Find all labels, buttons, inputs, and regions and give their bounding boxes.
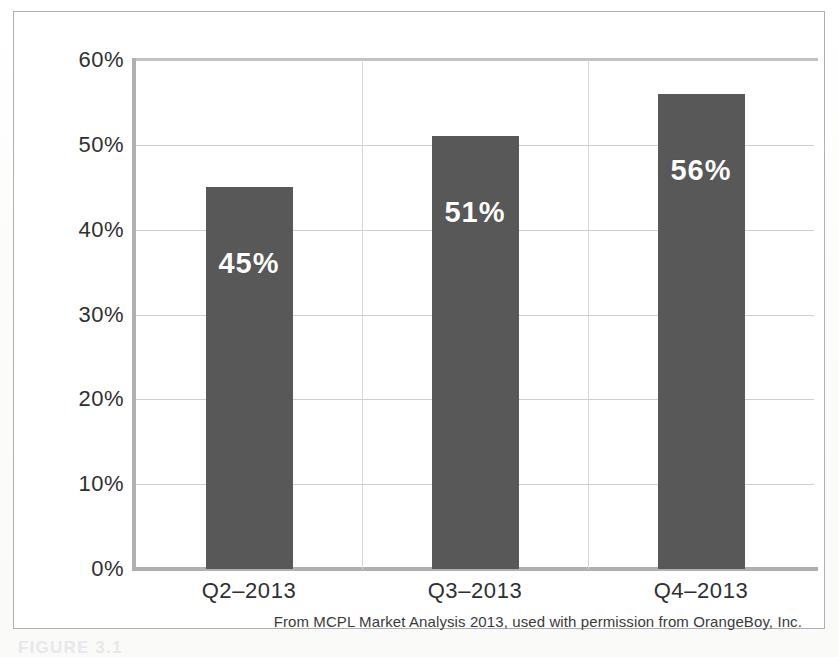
y-tick-label: 40% bbox=[20, 217, 124, 243]
source-caption: From MCPL Market Analysis 2013, used wit… bbox=[274, 613, 802, 630]
x-tick-label: Q2–2013 bbox=[159, 578, 339, 604]
plot-area: 45%51%56% bbox=[136, 60, 814, 569]
bar-value-label: 51% bbox=[432, 196, 519, 229]
y-tick-label: 30% bbox=[20, 302, 124, 328]
y-tick-label: 10% bbox=[20, 471, 124, 497]
x-tick-label: Q4–2013 bbox=[611, 578, 791, 604]
category-separator bbox=[588, 60, 589, 569]
figure-frame: 0%10%20%30%40%50%60% 45%51%56% Q2–2013Q3… bbox=[13, 11, 825, 629]
figure-number-caption: FIGURE 3.1 bbox=[18, 638, 123, 657]
y-tick-label: 20% bbox=[20, 386, 124, 412]
category-separator bbox=[362, 60, 363, 569]
bar-value-label: 45% bbox=[206, 247, 293, 280]
y-tick-label: 60% bbox=[20, 47, 124, 73]
bar-q2-2013 bbox=[206, 187, 293, 569]
x-tick-label: Q3–2013 bbox=[385, 578, 565, 604]
y-tick-label: 50% bbox=[20, 132, 124, 158]
y-tick-label: 0% bbox=[20, 556, 124, 582]
scanned-page: 0%10%20%30%40%50%60% 45%51%56% Q2–2013Q3… bbox=[0, 0, 838, 657]
bar-value-label: 56% bbox=[658, 154, 745, 187]
y-axis-labels: 0%10%20%30%40%50%60% bbox=[14, 12, 124, 657]
